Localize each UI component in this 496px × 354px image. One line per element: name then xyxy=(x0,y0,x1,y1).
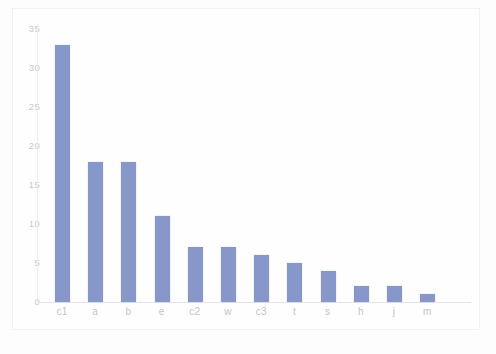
bar xyxy=(420,294,435,302)
x-axis-tick-label: m xyxy=(411,306,443,318)
bar xyxy=(321,271,336,302)
x-axis-tick-label: c3 xyxy=(245,306,277,318)
x-axis-tick-label: c1 xyxy=(46,306,78,318)
x-axis-tick-label: a xyxy=(79,306,111,318)
x-axis-tick-label: h xyxy=(345,306,377,318)
bar-group xyxy=(179,20,211,302)
x-axis-tick-label: j xyxy=(378,306,410,318)
bar xyxy=(55,45,70,302)
bar-group xyxy=(245,20,277,302)
bar xyxy=(287,263,302,302)
bar-chart-figure: 05101520253035 c1abec2wc3tshjm xyxy=(0,0,496,354)
bar-group xyxy=(112,20,144,302)
bar-group xyxy=(46,20,78,302)
bar xyxy=(188,247,203,302)
x-axis-tick-label: w xyxy=(212,306,244,318)
x-axis-tick-label: e xyxy=(146,306,178,318)
bar-group xyxy=(411,20,443,302)
bar xyxy=(88,162,103,302)
bar-group xyxy=(312,20,344,302)
bars-layer: c1abec2wc3tshjm xyxy=(0,0,496,354)
bar-group xyxy=(212,20,244,302)
bar-group xyxy=(378,20,410,302)
x-axis-tick-label: c2 xyxy=(179,306,211,318)
bar-group xyxy=(345,20,377,302)
x-axis-tick-label: s xyxy=(312,306,344,318)
bar xyxy=(121,162,136,302)
bar-group xyxy=(278,20,310,302)
bar xyxy=(221,247,236,302)
x-axis-tick-label: b xyxy=(112,306,144,318)
x-axis-tick-label: t xyxy=(278,306,310,318)
bar xyxy=(254,255,269,302)
bar xyxy=(155,216,170,302)
bar xyxy=(387,286,402,302)
bar-group xyxy=(146,20,178,302)
bar-group xyxy=(79,20,111,302)
bar xyxy=(354,286,369,302)
